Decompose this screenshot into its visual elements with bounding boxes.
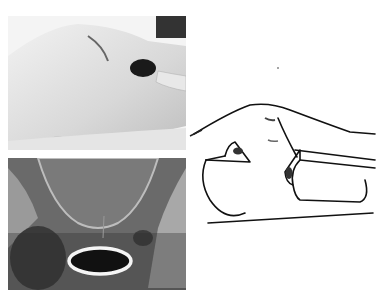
line-drawing-image — [190, 50, 389, 250]
arrow-marker-icon — [188, 128, 204, 138]
clinical-photo-image — [8, 16, 186, 150]
clinical-photo — [8, 16, 186, 150]
pelvic-xray — [8, 158, 186, 290]
pelvic-xray-image — [8, 158, 186, 290]
lateral-line-drawing — [190, 50, 389, 250]
